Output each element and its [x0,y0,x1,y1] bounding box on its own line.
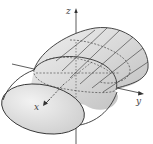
z-axis-label: z [65,6,71,16]
elliptic-cylinder-diagram: z x y [0,0,153,144]
diagram-canvas: z x y [0,0,153,144]
y-axis [117,88,144,96]
x-axis-label: x [34,102,39,112]
y-axis-back [12,64,34,69]
y-axis-label: y [135,96,142,106]
